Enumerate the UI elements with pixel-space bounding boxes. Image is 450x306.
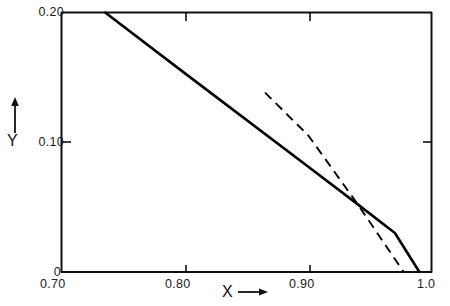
y-axis-title: Y xyxy=(7,132,18,150)
x-axis-arrow-icon xyxy=(238,288,268,295)
tick-marks xyxy=(62,13,431,272)
dashed-curve xyxy=(265,93,404,272)
x-tick-label-070: 0.70 xyxy=(40,277,66,291)
x-tick-label-080: 0.80 xyxy=(165,277,191,291)
figure-container: 0.20 0.10 0 0.70 0.80 0.90 1.0 Y X xyxy=(0,0,450,306)
x-tick-label-100: 1.0 xyxy=(417,277,435,291)
data-series-group xyxy=(105,12,420,272)
plot-canvas xyxy=(0,0,450,306)
y-tick-label-middle: 0.10 xyxy=(38,135,64,149)
x-axis-title: X xyxy=(222,283,233,301)
y-axis-arrow-icon xyxy=(11,97,19,133)
solid-curve xyxy=(105,12,420,272)
y-tick-label-top: 0.20 xyxy=(38,5,64,19)
plot-frame xyxy=(61,12,432,273)
x-tick-label-090: 0.90 xyxy=(289,277,315,291)
